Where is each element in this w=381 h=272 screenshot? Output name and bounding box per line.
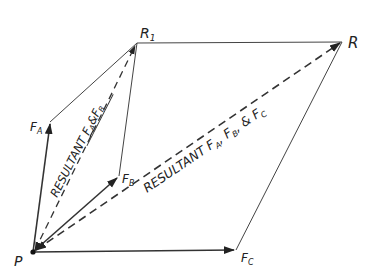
construction-fc-r bbox=[236, 42, 342, 250]
label-fb: FB bbox=[122, 172, 134, 188]
label-r1: R1 bbox=[140, 25, 155, 43]
vector-fb bbox=[33, 178, 117, 252]
label-fc: FC bbox=[241, 251, 254, 267]
vector-fc bbox=[33, 250, 234, 252]
label-r: R bbox=[348, 34, 358, 52]
construction-r1-r bbox=[137, 42, 342, 43]
diagram-canvas: P R R1 FA FB FC RESULTANT FA&FB RESULTAN… bbox=[0, 0, 381, 272]
label-resultant-fa-fb: RESULTANT FA&FB bbox=[47, 88, 114, 200]
label-resultant-fa-fb-fc: RESULTANT FA, FB, & FC bbox=[140, 103, 269, 198]
construction-fb-r1 bbox=[119, 43, 137, 176]
vector-fa bbox=[33, 124, 50, 252]
svg-text:RESULTANT FA, FB, & FC: RESULTANT FA, FB, & FC bbox=[140, 103, 269, 198]
label-p: P bbox=[14, 253, 23, 269]
point-p bbox=[30, 249, 35, 254]
label-fa: FA bbox=[30, 120, 42, 136]
force-diagram: P R R1 FA FB FC RESULTANT FA&FB RESULTAN… bbox=[0, 0, 381, 272]
